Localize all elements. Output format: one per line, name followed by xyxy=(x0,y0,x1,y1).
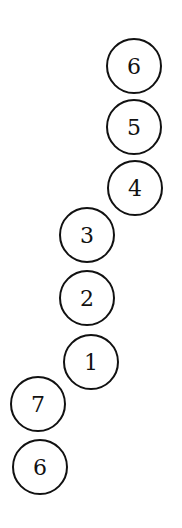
circle-node-7: 7 xyxy=(10,376,66,432)
node-label: 1 xyxy=(84,350,98,375)
circle-node-5: 5 xyxy=(106,99,162,155)
circle-node-4: 4 xyxy=(107,160,163,216)
circle-node-3: 3 xyxy=(59,207,115,263)
circle-node-1: 1 xyxy=(63,334,119,390)
node-label: 5 xyxy=(127,115,141,140)
node-label: 6 xyxy=(127,54,141,79)
circle-node-6-top: 6 xyxy=(106,38,162,94)
node-label: 7 xyxy=(31,392,45,417)
node-label: 3 xyxy=(80,223,94,248)
circle-node-6-bottom: 6 xyxy=(12,439,68,495)
node-label: 6 xyxy=(33,455,47,480)
circle-node-2: 2 xyxy=(59,270,115,326)
node-label: 4 xyxy=(128,176,142,201)
node-label: 2 xyxy=(80,286,94,311)
